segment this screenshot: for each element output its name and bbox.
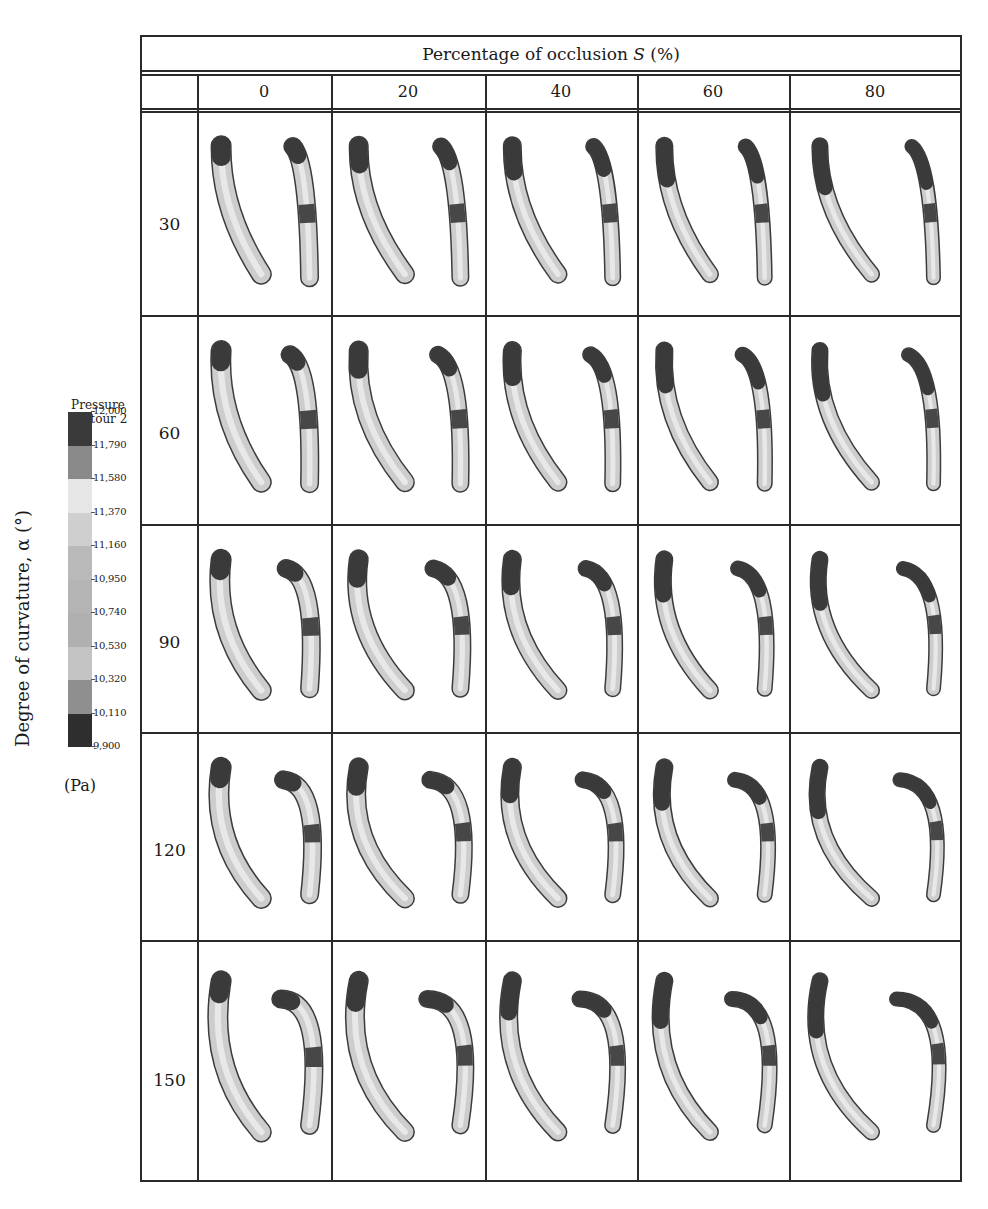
colorbar-band: [68, 446, 92, 480]
col-header-0: 0: [197, 82, 331, 101]
vessel-cell: [485, 111, 637, 315]
vessel-cell: [197, 732, 331, 940]
row-header-150: 150: [142, 1070, 197, 1090]
col-header-20: 20: [331, 82, 485, 101]
header-title-text: Percentage of occlusion: [422, 44, 633, 64]
vessel-cell: [331, 940, 485, 1180]
colorbar-band: [68, 714, 92, 748]
colorbar-tick-label: 10,110: [93, 707, 126, 718]
colorbar: [68, 412, 92, 747]
vessel-cell: [637, 524, 789, 732]
colorbar-tick-label: 12,000: [93, 405, 126, 416]
vessel-cell: [331, 111, 485, 315]
vessel-cell: [637, 111, 789, 315]
vessel-cell: [789, 524, 961, 732]
col-header-40: 40: [485, 82, 637, 101]
table-bottom-border: [140, 1180, 962, 1182]
header-divider-1: [140, 70, 962, 72]
vessel-cell: [637, 732, 789, 940]
vessel-cell: [197, 315, 331, 524]
colorbar-tick-label: 10,950: [93, 573, 126, 584]
row-header-120: 120: [142, 840, 197, 860]
vessel-cell: [789, 940, 961, 1180]
header-divider-2: [140, 74, 962, 76]
vessel-cell: [197, 524, 331, 732]
colorbar-tick-label: 10,740: [93, 606, 126, 617]
col-header-bottom: [140, 108, 962, 110]
header-title-variable: S: [633, 44, 645, 64]
row-header-30: 30: [142, 214, 197, 234]
colorbar-tick-label: 10,530: [93, 640, 126, 651]
vessel-cell: [789, 111, 961, 315]
vessel-cell: [485, 732, 637, 940]
vessel-cell: [789, 315, 961, 524]
colorbar-band: [68, 546, 92, 580]
vessel-cell: [637, 940, 789, 1180]
colorbar-band: [68, 647, 92, 681]
vessel-cell: [637, 315, 789, 524]
table-top-border: [140, 35, 962, 37]
colorbar-tick-label: 10,320: [93, 673, 126, 684]
colorbar-tick-label: 9,900: [93, 740, 120, 751]
colorbar-tick-label: 11,370: [93, 506, 126, 517]
row-header-60: 60: [142, 423, 197, 443]
header-title: Percentage of occlusion S (%): [140, 44, 962, 64]
vessel-cell: [331, 732, 485, 940]
colorbar-band: [68, 479, 92, 513]
colorbar-tick-label: 11,160: [93, 539, 126, 550]
col-header-60: 60: [637, 82, 789, 101]
vessel-cell: [485, 940, 637, 1180]
col-header-80: 80: [789, 82, 961, 101]
vessel-cell: [331, 315, 485, 524]
colorbar-tick-label: 11,580: [93, 472, 126, 483]
vessel-cell: [197, 111, 331, 315]
vessel-cell: [789, 732, 961, 940]
colorbar-band: [68, 613, 92, 647]
y-axis-label: Degree of curvature, α (°): [12, 499, 33, 759]
vessel-cell: [485, 315, 637, 524]
legend-unit: (Pa): [60, 776, 100, 795]
row-header-90: 90: [142, 632, 197, 652]
colorbar-band: [68, 580, 92, 614]
colorbar-band: [68, 513, 92, 547]
header-title-unit: (%): [645, 44, 680, 64]
table-left-border: [140, 35, 142, 1182]
colorbar-band: [68, 680, 92, 714]
colorbar-band: [68, 412, 92, 446]
colorbar-tick-label: 11,790: [93, 439, 126, 450]
vessel-cell: [485, 524, 637, 732]
vessel-cell: [197, 940, 331, 1180]
vessel-cell: [331, 524, 485, 732]
